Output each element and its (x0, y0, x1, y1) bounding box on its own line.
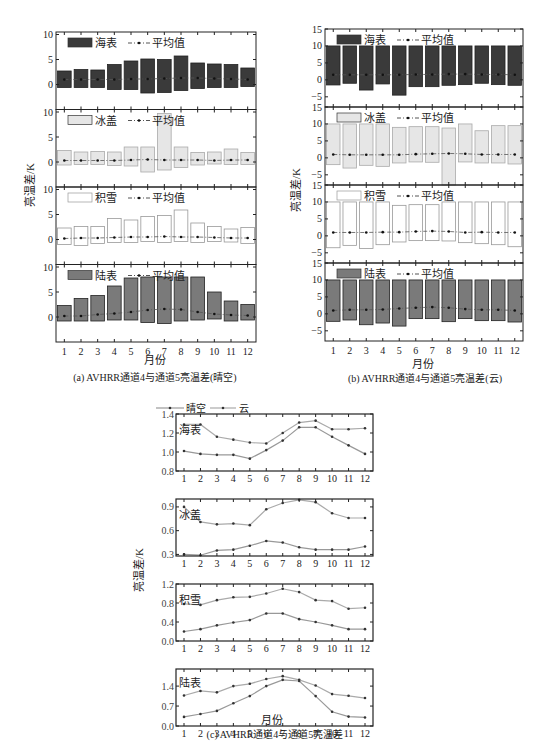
xlabel-a: 月份 (140, 351, 170, 367)
bar (359, 202, 373, 248)
x-tick-label: 9 (313, 643, 318, 654)
x-tick-label: 8 (297, 473, 302, 484)
caption-b: (b) AVHRR通道4与通道5亮温差(云) (310, 370, 540, 385)
bar (409, 127, 423, 162)
x-tick-label: 10 (327, 473, 337, 484)
bar (108, 152, 122, 166)
bar (241, 305, 255, 321)
x-tick-label: 1 (62, 346, 67, 357)
y-tick-label: 0.4 (162, 617, 175, 628)
bar (208, 227, 222, 242)
x-tick-label: 5 (247, 473, 252, 484)
x-tick-label: 2 (198, 558, 203, 569)
bar (359, 124, 373, 165)
x-tick-label: 4 (380, 345, 385, 356)
panel-a-2: 0510积雪平均值 (43, 184, 256, 265)
x-tick-label: 11 (344, 473, 354, 484)
legend-label: 冰盖 (95, 114, 117, 127)
legend-swatch (68, 116, 92, 125)
bar (442, 128, 456, 185)
bar (491, 202, 505, 245)
series-line (184, 500, 365, 525)
legend-swatch (68, 38, 92, 47)
panel-label: 海表 (179, 423, 201, 436)
bar (108, 65, 122, 90)
y-tick-label: 5 (48, 287, 53, 298)
bar (191, 277, 205, 320)
bar (425, 280, 439, 319)
legend-label: 积雪 (95, 192, 117, 204)
y-tick-label: 10 (43, 262, 53, 273)
bar (224, 229, 238, 242)
x-tick-label: 3 (95, 346, 100, 357)
panel-c-0: 1234567891011120.81.01.21.4海表 (162, 409, 374, 485)
x-tick-label: 11 (226, 346, 236, 357)
legend-mean-label: 平均值 (152, 115, 185, 127)
bar (409, 46, 423, 87)
x-tick-label: 3 (364, 345, 369, 356)
bar (392, 205, 406, 242)
bar (224, 149, 238, 165)
y-tick-label: 10 (312, 40, 322, 51)
x-tick-label: 1 (182, 558, 187, 569)
bar (58, 228, 72, 245)
bar (241, 228, 255, 244)
y-tick-label: 0 (317, 152, 322, 163)
x-tick-label: 3 (214, 643, 219, 654)
x-tick-label: 5 (397, 345, 402, 356)
bar (343, 46, 357, 83)
x-tick-label: 1 (182, 643, 187, 654)
y-tick-label: 1.0 (162, 447, 175, 458)
bar (409, 205, 423, 241)
panel-b-1: −5051015冰盖平均值 (311, 102, 523, 186)
panel-c-2: 1234567891011120.00.40.81.2积雪 (162, 579, 374, 655)
legend-label: 海表 (95, 36, 117, 49)
bar (191, 63, 205, 89)
bar (475, 46, 489, 83)
panel-a-3: 0510陆表平均值 (43, 262, 256, 343)
bar (392, 280, 406, 326)
legend-mean-label: 平均值 (152, 37, 185, 49)
x-tick-label: 2 (79, 346, 84, 357)
y-tick-label: 1.2 (162, 579, 175, 590)
bar (475, 280, 489, 321)
x-tick-label: 6 (264, 643, 269, 654)
x-tick-label: 4 (231, 473, 236, 484)
legend-swatch (68, 271, 92, 280)
x-tick-label: 12 (360, 643, 370, 654)
legend-label: 陆表 (95, 269, 117, 282)
panel-c-1: 1234567891011120.30.60.9冰盖 (162, 498, 374, 569)
y-tick-label: 0 (48, 312, 53, 323)
bar (74, 152, 88, 165)
legend-swatch (337, 191, 361, 200)
x-tick-label: 10 (327, 643, 337, 654)
xlabel-c: 月份 (257, 711, 287, 727)
bar (343, 280, 357, 320)
bar (124, 220, 138, 243)
bar (58, 306, 72, 322)
bar (491, 126, 505, 163)
y-tick-label: 10 (312, 274, 322, 285)
xlabel-b: 月份 (408, 355, 438, 371)
legend-label: 冰盖 (364, 111, 386, 124)
bar (458, 46, 472, 85)
bar (124, 278, 138, 320)
x-tick-label: 2 (198, 643, 203, 654)
y-axis-label: 亮温差/K (23, 163, 36, 207)
bar (343, 202, 357, 245)
y-tick-label: 10 (312, 196, 322, 207)
legend-label: 陆表 (364, 267, 386, 280)
bar (224, 65, 238, 88)
x-tick-label: 5 (129, 346, 134, 357)
y-tick-label: 15 (312, 258, 322, 269)
bar (208, 152, 222, 164)
x-tick-label: 8 (297, 643, 302, 654)
bar (326, 124, 340, 165)
bar (475, 131, 489, 163)
bar (442, 46, 456, 85)
chart-a: 0510海表平均值0510冰盖平均值0510积雪平均值0510陆表平均值1234… (23, 29, 256, 357)
bar (392, 127, 406, 163)
y-tick-label: 5 (317, 57, 322, 68)
y-tick-label: 1.4 (162, 681, 175, 692)
bar (141, 277, 155, 323)
